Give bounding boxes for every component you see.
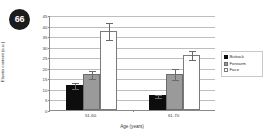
plot-area: 051015202530354045 [49, 16, 215, 111]
error-bar-cap-top [72, 83, 79, 84]
error-bar-cap-bottom [189, 60, 196, 61]
x-axis-title: Age (years) [49, 124, 215, 129]
y-axis-tick-label: 10 [43, 87, 48, 92]
y-axis-tick-label: 20 [43, 66, 48, 71]
chart-legend: ButtockForearmFace [221, 51, 263, 77]
legend-item: Buttock [224, 54, 261, 60]
error-bar [192, 51, 193, 60]
legend-swatch-icon [224, 62, 228, 66]
legend-swatch-icon [224, 68, 228, 72]
y-axis-tick-label: 35 [43, 35, 48, 40]
y-axis-tick-mark [48, 111, 50, 112]
y-axis-tick-mark [48, 37, 50, 38]
y-axis-tick-mark [48, 100, 50, 101]
gridline [50, 16, 215, 17]
y-axis-tick-mark [48, 69, 50, 70]
error-bar-cap-top [155, 95, 162, 96]
y-axis-tick-mark [48, 90, 50, 91]
y-axis-tick-mark [48, 79, 50, 80]
y-axis-tick-mark [48, 27, 50, 28]
y-axis-tick-label: 40 [43, 24, 48, 29]
legend-swatch-icon [224, 55, 228, 59]
error-bar-cap-top [106, 23, 113, 24]
legend-item: Face [224, 67, 261, 73]
y-axis-tick-mark [48, 48, 50, 49]
bar-face-61-70 [183, 55, 200, 110]
x-axis-category-label: 51-60 [85, 113, 96, 118]
gridline [50, 48, 215, 49]
plot-inner: 051015202530354045 [50, 16, 215, 110]
legend-label: Face [230, 67, 240, 73]
error-bar [92, 71, 93, 79]
x-axis-group-separator [133, 110, 134, 112]
error-bar-cap-bottom [72, 89, 79, 90]
y-axis-tick-mark [48, 58, 50, 59]
error-bar [175, 69, 176, 80]
figure-number-badge: 66 [9, 9, 30, 30]
y-axis-tick-label: 45 [43, 14, 48, 19]
x-axis-category-label: 61-70 [168, 113, 179, 118]
error-bar-cap-bottom [106, 40, 113, 41]
error-bar-cap-bottom [89, 79, 96, 80]
gridline [50, 37, 215, 38]
y-axis-title: Elastin content (a.u.) [0, 22, 8, 102]
y-axis-tick-label: 25 [43, 56, 48, 61]
y-axis-tick-label: 30 [43, 45, 48, 50]
error-bar-cap-bottom [172, 80, 179, 81]
error-bar-cap-top [172, 69, 179, 70]
y-axis-tick-mark [48, 16, 50, 17]
figure-panel: 66 Elastin content (a.u.) 05101520253035… [0, 0, 267, 136]
error-bar-cap-top [189, 51, 196, 52]
bar-face-51-60 [100, 31, 117, 110]
legend-label: Buttock [230, 54, 244, 60]
error-bar [109, 23, 110, 40]
legend-item: Forearm [224, 61, 261, 67]
y-axis-tick-label: 15 [43, 77, 48, 82]
error-bar-cap-bottom [155, 98, 162, 99]
error-bar-cap-top [89, 71, 96, 72]
legend-label: Forearm [230, 61, 246, 67]
gridline [50, 27, 215, 28]
